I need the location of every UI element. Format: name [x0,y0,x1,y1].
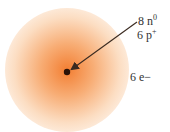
electron-count-label: 6 e− [130,71,151,84]
nucleus [64,69,70,75]
proton-count-label: 6 p+ [137,25,157,42]
